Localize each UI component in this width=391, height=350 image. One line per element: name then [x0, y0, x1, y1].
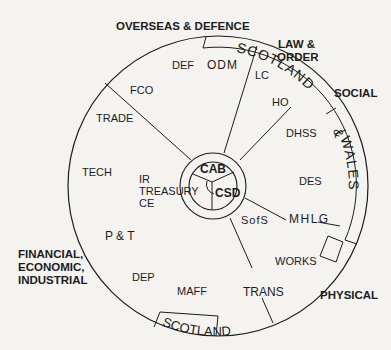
dept-ce: CE [139, 198, 154, 209]
svg-text:WALES: WALES [337, 134, 362, 191]
dept-trans: TRANS [243, 286, 284, 298]
svg-text:SCOTLAND: SCOTLAND [161, 314, 232, 339]
sector-financial-line1: FINANCIAL, [18, 248, 83, 260]
sector-physical: PHYSICAL [320, 289, 378, 301]
dept-maff: MAFF [177, 286, 207, 297]
sector-overseas-defence: OVERSEAS & DEFENCE [116, 20, 250, 32]
dept-ho: HO [272, 97, 289, 108]
sector-financial-line3: INDUSTRIAL [18, 274, 88, 286]
dept-works: WORKS [275, 256, 317, 267]
hub-csd: CSD [215, 187, 240, 199]
dept-ir: IR [139, 174, 150, 185]
sector-law-order-line2: ORDER [277, 51, 319, 63]
dept-def: DEF [172, 60, 194, 71]
sector-financial-line2: ECONOMIC, [18, 261, 84, 273]
dept-mhlg: MHLG [289, 213, 330, 225]
dept-sofs: SofS [241, 215, 269, 226]
sector-law-order-line1: LAW & [278, 38, 315, 50]
dept-treasury: TREASURY [139, 186, 199, 197]
divider-trans [262, 298, 273, 323]
dept-dep: DEP [132, 272, 155, 283]
divider-law-social [240, 107, 291, 160]
dept-dhss: DHSS [286, 128, 317, 139]
dept-p-and-t: P & T [105, 230, 135, 242]
dept-tech: TECH [82, 167, 112, 178]
hub-cab: CAB [200, 163, 226, 175]
dept-des: DES [299, 176, 322, 187]
wales-label: WALES [337, 134, 362, 191]
dept-trade: TRADE [96, 113, 133, 124]
dept-fco: FCO [130, 85, 153, 96]
dept-odm: ODM [207, 59, 238, 71]
scotland-bottom-label: SCOTLAND [161, 314, 232, 339]
sector-social: SOCIAL [334, 87, 377, 99]
dept-lc: LC [255, 70, 269, 81]
